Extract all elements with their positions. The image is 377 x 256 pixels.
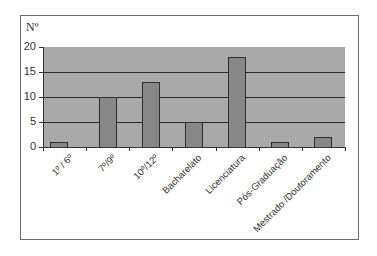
- gridline: [43, 97, 345, 98]
- x-tick-mark: [43, 147, 44, 151]
- y-tick-label: 10: [16, 90, 36, 102]
- bar: [142, 82, 160, 148]
- y-tick-label: 20: [16, 40, 36, 52]
- y-tick-mark: [39, 72, 43, 73]
- x-axis: [43, 147, 345, 148]
- y-tick-label: 15: [16, 65, 36, 77]
- y-tick-label: 0: [16, 140, 36, 152]
- y-tick-mark: [39, 47, 43, 48]
- y-tick-mark: [39, 122, 43, 123]
- y-axis-title: Nº: [26, 20, 38, 35]
- plot-area: [43, 47, 345, 147]
- bar: [228, 57, 246, 148]
- gridline: [43, 72, 345, 73]
- y-axis: [43, 47, 44, 148]
- x-tick-mark: [259, 147, 260, 151]
- x-tick-mark: [86, 147, 87, 151]
- x-tick-mark: [216, 147, 217, 151]
- bar: [99, 97, 117, 148]
- x-tick-mark: [302, 147, 303, 151]
- x-tick-mark: [345, 147, 346, 151]
- y-tick-mark: [39, 97, 43, 98]
- y-tick-label: 5: [16, 115, 36, 127]
- bar: [185, 122, 203, 148]
- x-tick-mark: [172, 147, 173, 151]
- x-tick-mark: [129, 147, 130, 151]
